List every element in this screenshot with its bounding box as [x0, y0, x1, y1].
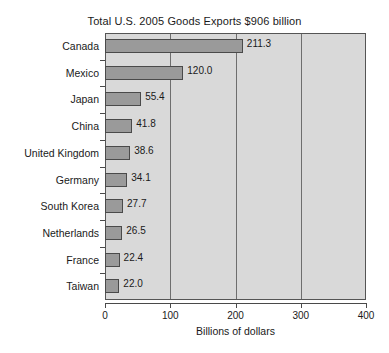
category-label-text: China	[0, 113, 99, 140]
y-axis-tick	[100, 247, 105, 248]
bar-row: 22.4	[105, 247, 366, 274]
bar-value-label: 22.4	[124, 251, 143, 265]
bar-value-label: 22.0	[123, 277, 142, 291]
category-label-text: Japan	[0, 86, 99, 113]
bar-row: 22.0	[105, 273, 366, 300]
category-label-united-kingdom: United Kingdom	[0, 140, 99, 167]
x-axis-tick	[366, 303, 367, 308]
bar-value-label: 26.5	[126, 224, 145, 238]
x-axis-tick-label: 100	[150, 310, 190, 322]
category-label-mexico: Mexico	[0, 60, 99, 87]
bar	[105, 66, 183, 80]
bar-value-label: 120.0	[187, 64, 212, 78]
category-label-taiwan: Taiwan	[0, 273, 99, 300]
bar	[105, 173, 127, 187]
bar	[105, 146, 130, 160]
bar	[105, 279, 119, 293]
category-label-text: Canada	[0, 33, 99, 60]
category-label-south-korea: South Korea	[0, 193, 99, 220]
x-axis-tick-label: 200	[216, 310, 256, 322]
category-labels: CanadaMexicoJapanChinaUnited KingdomGerm…	[0, 33, 99, 300]
bar-row: 55.4	[105, 86, 366, 113]
bar-value-label: 27.7	[127, 197, 146, 211]
x-axis-tick-label: 300	[281, 310, 321, 322]
x-axis-tick	[170, 303, 171, 308]
y-axis-tick	[100, 113, 105, 114]
category-label-china: China	[0, 113, 99, 140]
y-axis-tick	[100, 140, 105, 141]
chart-title: Total U.S. 2005 Goods Exports $906 billi…	[0, 15, 389, 28]
y-axis-tick	[100, 167, 105, 168]
category-label-text: Netherlands	[0, 220, 99, 247]
x-axis-title: Billions of dollars	[105, 325, 366, 338]
bar-value-label: 211.3	[247, 37, 271, 51]
category-label-text: France	[0, 247, 99, 274]
x-axis-tick-label: 400	[346, 310, 386, 322]
bar-value-label: 41.8	[136, 117, 155, 131]
bar-row: 34.1	[105, 167, 366, 194]
category-label-text: Taiwan	[0, 273, 99, 300]
bar-row: 120.0	[105, 60, 366, 87]
bar-value-label: 55.4	[145, 90, 164, 104]
bar-row: 26.5	[105, 220, 366, 247]
y-axis-tick	[100, 86, 105, 87]
bar-value-label: 38.6	[134, 144, 153, 158]
x-axis-tick	[236, 303, 237, 308]
category-label-text: Germany	[0, 167, 99, 194]
x-axis-tick-label: 0	[85, 310, 125, 322]
bar-value-label: 34.1	[131, 171, 150, 185]
category-label-text: South Korea	[0, 193, 99, 220]
y-axis-tick	[100, 60, 105, 61]
category-label-japan: Japan	[0, 86, 99, 113]
bars-layer: 211.3120.055.441.838.634.127.726.522.422…	[105, 33, 366, 300]
bar-row: 27.7	[105, 193, 366, 220]
x-axis-tick	[105, 303, 106, 308]
category-label-germany: Germany	[0, 167, 99, 194]
category-label-text: Mexico	[0, 60, 99, 87]
bar	[105, 39, 243, 53]
bar	[105, 92, 141, 106]
y-axis-tick	[100, 220, 105, 221]
category-label-netherlands: Netherlands	[0, 220, 99, 247]
y-axis-tick	[100, 273, 105, 274]
bar	[105, 226, 122, 240]
category-label-canada: Canada	[0, 33, 99, 60]
bar	[105, 199, 123, 213]
category-label-france: France	[0, 247, 99, 274]
bar	[105, 119, 132, 133]
y-axis-tick	[100, 193, 105, 194]
bar-row: 211.3	[105, 33, 366, 60]
bar	[105, 253, 120, 267]
category-label-text: United Kingdom	[0, 140, 99, 167]
bar-row: 41.8	[105, 113, 366, 140]
x-axis-tick	[301, 303, 302, 308]
bar-chart: Total U.S. 2005 Goods Exports $906 billi…	[0, 0, 389, 353]
bar-row: 38.6	[105, 140, 366, 167]
